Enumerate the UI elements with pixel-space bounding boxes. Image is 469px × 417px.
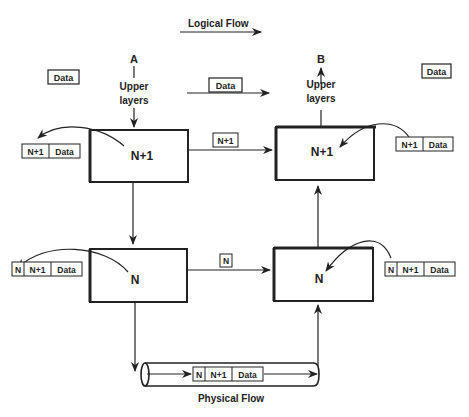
svg-text:N: N <box>388 265 394 275</box>
right-data-box: Data <box>422 64 451 78</box>
svg-text:N: N <box>131 273 140 287</box>
svg-text:A: A <box>130 53 138 65</box>
left-data-box: Data <box>48 70 79 84</box>
svg-text:layers: layers <box>307 93 336 104</box>
logical-flow-label: Logical Flow <box>188 18 249 29</box>
svg-text:Upper: Upper <box>307 79 336 90</box>
pdu-n1-left: N+1 Data <box>22 144 80 158</box>
center-data-flow: Data <box>187 78 269 93</box>
pdu-n-right: N N+1 Data <box>385 262 455 276</box>
svg-text:N+1: N+1 <box>311 145 334 159</box>
link-n: N <box>188 254 270 270</box>
svg-text:N: N <box>223 256 229 266</box>
svg-text:N+1: N+1 <box>131 149 154 163</box>
svg-text:Data: Data <box>54 73 75 83</box>
svg-text:N+1: N+1 <box>218 136 234 146</box>
svg-text:Data: Data <box>238 370 257 380</box>
svg-text:layers: layers <box>120 95 149 106</box>
svg-text:Data: Data <box>430 265 449 275</box>
layer-n1-right: N+1 <box>276 124 409 180</box>
pdu-n-left: N N+1 Data <box>12 262 82 276</box>
svg-text:Data: Data <box>57 265 76 275</box>
endpoint-a: A Upper layers <box>120 53 149 127</box>
svg-text:N+1: N+1 <box>30 265 46 275</box>
svg-text:N: N <box>196 370 202 380</box>
pdu-n1-right: N+1 Data <box>396 137 453 151</box>
svg-text:Data: Data <box>427 67 448 77</box>
physical-medium-pipe: N N+1 Data <box>141 363 319 386</box>
svg-text:Data: Data <box>55 147 74 157</box>
protocol-layer-diagram: Logical Flow Data A Upper layers Data B … <box>0 0 469 417</box>
svg-text:Data: Data <box>216 81 237 91</box>
svg-text:B: B <box>317 53 325 65</box>
svg-text:N+1: N+1 <box>211 370 227 380</box>
physical-flow-label: Physical Flow <box>198 393 264 404</box>
svg-text:N+1: N+1 <box>402 140 418 150</box>
layer-n-right: N <box>274 241 391 301</box>
svg-text:N+1: N+1 <box>28 147 44 157</box>
svg-text:N: N <box>15 265 21 275</box>
svg-text:Upper: Upper <box>120 81 149 92</box>
endpoint-b: B Upper layers <box>307 53 336 126</box>
logical-flow: Logical Flow <box>180 18 261 32</box>
svg-text:N: N <box>315 272 324 286</box>
svg-text:N+1: N+1 <box>403 265 419 275</box>
svg-text:Data: Data <box>429 140 448 150</box>
link-n1: N+1 <box>189 133 272 150</box>
